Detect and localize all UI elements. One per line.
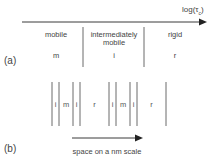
segment-label: r (137, 100, 166, 109)
axis-label-text: log(τ (182, 5, 199, 14)
region-label-mobile: mobile (36, 31, 76, 39)
space-axis-arrow (72, 135, 143, 142)
segment-label: m (116, 100, 130, 109)
diagram-canvas (0, 0, 219, 163)
region-abbr-m: m (36, 52, 76, 60)
region-label-intermediately-mobile: intermediately mobile (86, 31, 142, 47)
panel-label-a: (a) (4, 55, 16, 66)
panel-label-b: (b) (4, 143, 16, 154)
segment-label: m (59, 100, 73, 109)
segment-label: i (130, 100, 137, 109)
region-label-rigid: rigid (158, 31, 192, 39)
log-tau-axis-arrow (22, 19, 207, 26)
axis-label-close: ) (201, 5, 204, 14)
segment-label: i (52, 100, 59, 109)
region-abbr-r: r (158, 52, 192, 60)
segment-label: i (109, 100, 116, 109)
axis-label-log-tau: log(τc) (182, 6, 204, 17)
segment-label: i (73, 100, 80, 109)
region-abbr-i: i (86, 52, 142, 60)
space-axis-label: space on a nm scale (62, 148, 152, 156)
segment-label: r (80, 100, 109, 109)
